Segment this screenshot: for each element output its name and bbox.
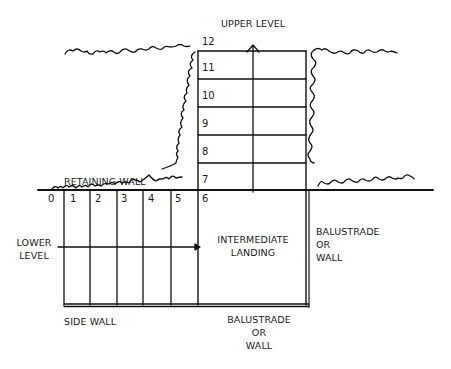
retaining-wall-label: RETAINING WALL (64, 175, 146, 188)
step-number-0: 0 (48, 193, 54, 204)
step-number-3: 3 (121, 193, 127, 204)
step-number-11: 11 (202, 62, 215, 73)
step-number-1: 1 (70, 193, 76, 204)
lower-level-label: LOWER LEVEL (14, 236, 54, 262)
balustrade-right-label: BALUSTRADE OR WALL (316, 225, 380, 264)
step-number-8: 8 (202, 146, 208, 157)
step-number-9: 9 (202, 118, 208, 129)
step-number-4: 4 (148, 193, 154, 204)
balustrade-bottom-label: BALUSTRADE OR WALL (215, 313, 303, 352)
right-ground-edge (318, 175, 414, 186)
intermediate-landing-label: INTERMEDIATE LANDING (205, 233, 301, 259)
upper-right-ground-edge (314, 49, 397, 54)
step-number-7: 7 (202, 174, 208, 185)
left-rough-wall (162, 52, 195, 169)
step-number-6: 6 (202, 193, 208, 204)
step-number-5: 5 (175, 193, 181, 204)
side-wall-label: SIDE WALL (64, 315, 116, 328)
step-number-12: 12 (202, 36, 215, 47)
upper-level-label: UPPER LEVEL (221, 17, 285, 30)
lower-arrow-head (195, 244, 200, 250)
upper-left-ground-edge (65, 45, 190, 55)
right-rough-wall (308, 50, 316, 163)
step-number-10: 10 (202, 90, 215, 101)
step-number-2: 2 (95, 193, 101, 204)
